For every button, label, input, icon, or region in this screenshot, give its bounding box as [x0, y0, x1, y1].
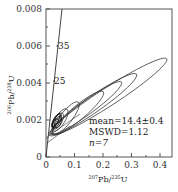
concordia-chart: 0 0.002 0.004 0.006 0.008 0 0.1 0.2 0.3 … [0, 0, 178, 192]
y-tick-label: 0.006 [16, 41, 42, 51]
mswd-annotation: MSWD=1.12 [89, 127, 148, 137]
n-annotation: n=7 [89, 138, 108, 148]
x-tick-label: 0.1 [67, 160, 81, 170]
x-axis-title: 207Pb/235U [88, 174, 127, 184]
x-tick-label: 0 [43, 160, 49, 170]
x-tick-label: 0.4 [153, 160, 168, 170]
x-axis [46, 153, 160, 157]
y-tick-label: 0.008 [16, 4, 42, 14]
mean-annotation: mean=14.4±0.4 [89, 116, 164, 126]
y-tick-label: 0 [36, 152, 42, 162]
y-axis-title: 206Pb/238U [6, 75, 16, 114]
x-tick-label: 0.3 [124, 160, 139, 170]
age-label-35: 35 [58, 41, 70, 51]
x-tick-label: 0.2 [96, 160, 110, 170]
y-tick-label: 0.004 [16, 78, 42, 88]
y-tick-label: 0.002 [16, 115, 42, 125]
age-label-25: 25 [54, 76, 66, 86]
